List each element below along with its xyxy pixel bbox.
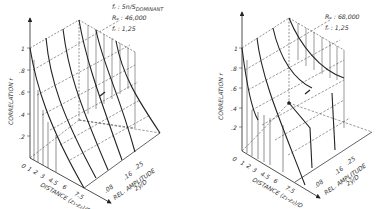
svg-text:.08: .08 — [103, 183, 115, 194]
right-y-axis — [295, 132, 372, 182]
svg-text:.2: .2 — [19, 133, 25, 140]
svg-text:1: 1 — [234, 45, 238, 52]
left-frequency-ratio: fᵣ : 1,25 — [112, 25, 136, 32]
svg-text:.6: .6 — [19, 89, 25, 96]
svg-text:.6: .6 — [231, 85, 237, 92]
svg-text:0: 0 — [232, 155, 239, 163]
svg-text:1: 1 — [27, 165, 34, 173]
right-curve-5 — [289, 103, 312, 168]
svg-text:.25: .25 — [133, 160, 145, 171]
left-z-axis-label: CORRELATION r — [7, 77, 14, 125]
svg-text:2: 2 — [33, 168, 40, 176]
svg-text:1: 1 — [21, 45, 25, 52]
left-annotations: fᵣ : 5n/SDOMINANT Rₑ : 46,000 fᵣ : 1,25 — [112, 3, 164, 32]
left-curve-6 — [116, 41, 160, 133]
svg-text:.08: .08 — [313, 178, 325, 189]
svg-text:2: 2 — [246, 162, 253, 170]
left-y-axis-label: REL. AMPLITUDE — [112, 167, 157, 201]
right-y-axis-label: REL. AMPLITUDE — [323, 162, 368, 196]
left-curve-2 — [46, 38, 96, 178]
svg-text:.4: .4 — [19, 111, 25, 118]
svg-text:6: 6 — [62, 183, 69, 191]
svg-text:.16: .16 — [333, 165, 345, 176]
right-z-axis-label: CORRELATION r — [217, 72, 224, 120]
svg-text:6: 6 — [273, 177, 280, 185]
svg-text:1: 1 — [240, 159, 247, 167]
svg-text:.8: .8 — [19, 67, 25, 74]
diagram-canvas: fᵣ : 5n/SDOMINANT Rₑ : 46,000 fᵣ : 1,25 … — [0, 0, 380, 209]
svg-text:.25: .25 — [345, 155, 357, 166]
right-frequency-ratio: fᵣ : 1,25 — [325, 24, 349, 31]
right-reynolds-number: Rₑ : 68,000 — [325, 13, 360, 20]
right-curve-2 — [257, 38, 305, 185]
svg-text:fᵣ : 5n/SDOMINANT: fᵣ : 5n/SDOMINANT — [112, 3, 164, 12]
left-z-ticks: 1 .8 .6 .4 .2 — [19, 45, 25, 140]
left-reynolds-number: Rₑ : 46,000 — [112, 14, 147, 21]
right-curve-6 — [332, 93, 335, 150]
svg-text:.16: .16 — [122, 170, 134, 181]
right-annotations: Rₑ : 68,000 fᵣ : 1,25 — [325, 13, 360, 31]
svg-text:.8: .8 — [231, 65, 237, 72]
svg-text:3: 3 — [40, 172, 47, 180]
svg-text:3: 3 — [252, 166, 259, 174]
right-z-ticks: 1 .8 .6 .4 .2 — [231, 45, 238, 131]
right-curve-1 — [242, 48, 258, 120]
left-curve-5 — [96, 30, 135, 152]
left-x-ticks: 0 1 2 3 4.5 6 7.5 — [21, 162, 86, 201]
svg-text:.2: .2 — [231, 124, 237, 131]
right-top-edge — [242, 18, 344, 50]
svg-text:.4: .4 — [231, 105, 237, 112]
svg-text:0: 0 — [21, 162, 28, 170]
